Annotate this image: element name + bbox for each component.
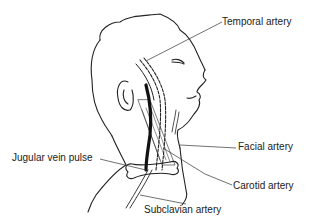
leader-subclavian	[140, 195, 186, 204]
label-temporal-artery: Temporal artery	[222, 16, 291, 28]
leader-carotid	[163, 148, 232, 185]
label-carotid-artery: Carotid artery	[233, 180, 294, 192]
label-facial-artery: Facial artery	[238, 141, 293, 153]
label-jugular-vein-pulse: Jugular vein pulse	[12, 152, 93, 164]
face-profile	[177, 70, 206, 148]
label-subclavian-artery: Subclavian artery	[144, 204, 221, 216]
leader-facial	[180, 145, 236, 148]
ear	[117, 81, 133, 110]
diagram-canvas: Temporal artery Facial artery Jugular ve…	[0, 0, 312, 222]
head-outline	[100, 14, 205, 70]
leader-temporal	[146, 22, 222, 61]
